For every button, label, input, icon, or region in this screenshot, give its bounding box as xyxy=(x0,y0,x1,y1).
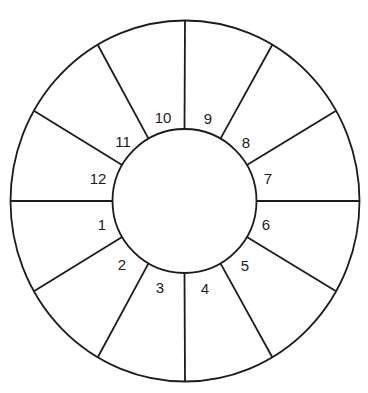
spoke-line xyxy=(98,45,149,139)
spoke-line xyxy=(34,111,122,165)
segment-label-2: 2 xyxy=(118,256,126,273)
segment-label-9: 9 xyxy=(204,110,212,127)
inner-circle xyxy=(113,129,257,273)
spoke-line xyxy=(247,111,336,165)
segment-label-10: 10 xyxy=(155,109,172,126)
spoke-line xyxy=(185,21,186,130)
segment-label-8: 8 xyxy=(242,134,250,151)
segment-label-3: 3 xyxy=(156,279,164,296)
spoke-line xyxy=(247,237,336,291)
segment-label-4: 4 xyxy=(201,280,209,297)
spoke-line xyxy=(98,263,149,357)
segment-label-12: 12 xyxy=(90,170,107,187)
spoke-line xyxy=(185,273,186,382)
spoke-line xyxy=(221,263,273,357)
segment-label-6: 6 xyxy=(262,216,270,233)
spoke-line xyxy=(34,237,122,291)
segmented-ring-diagram: 123456789101112 xyxy=(0,0,368,393)
segment-label-1: 1 xyxy=(98,216,106,233)
segment-label-7: 7 xyxy=(264,170,272,187)
spoke-line xyxy=(221,45,273,139)
segment-label-11: 11 xyxy=(115,133,131,150)
segment-label-5: 5 xyxy=(241,257,249,274)
